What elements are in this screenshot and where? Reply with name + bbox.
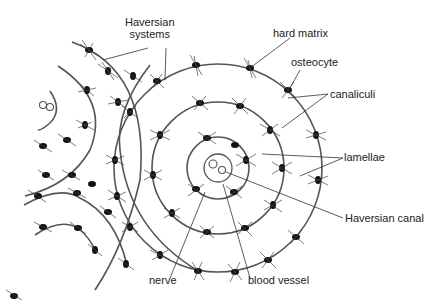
label-canaliculi: canaliculi <box>330 88 375 100</box>
left-system-arc-3 <box>38 91 57 130</box>
left-system-arc-4 <box>119 65 200 272</box>
outer-lamella-ring <box>114 64 322 272</box>
label-blood-vessel: blood vessel <box>248 274 309 286</box>
leader-lines <box>103 38 343 278</box>
label-lamellae: lamellae <box>344 151 385 163</box>
label-nerve: nerve <box>149 274 177 286</box>
label-haversian-systems: Haversian systems <box>125 16 175 40</box>
haversian-canal-ring <box>204 154 232 182</box>
osteocytes <box>10 47 321 299</box>
label-osteocyte: osteocyte <box>291 56 338 68</box>
label-haversian-line2: systems <box>125 28 175 40</box>
left-system-arc-1 <box>72 42 141 290</box>
bone-diagram: Haversian systems hard matrix osteocyte … <box>0 0 440 300</box>
label-hard-matrix: hard matrix <box>273 27 328 39</box>
diagram-drawing <box>0 0 440 300</box>
left-system-arc-2 <box>25 66 96 196</box>
label-haversian-line1: Haversian <box>125 16 175 28</box>
label-haversian-canal: Haversian canal <box>345 212 424 224</box>
